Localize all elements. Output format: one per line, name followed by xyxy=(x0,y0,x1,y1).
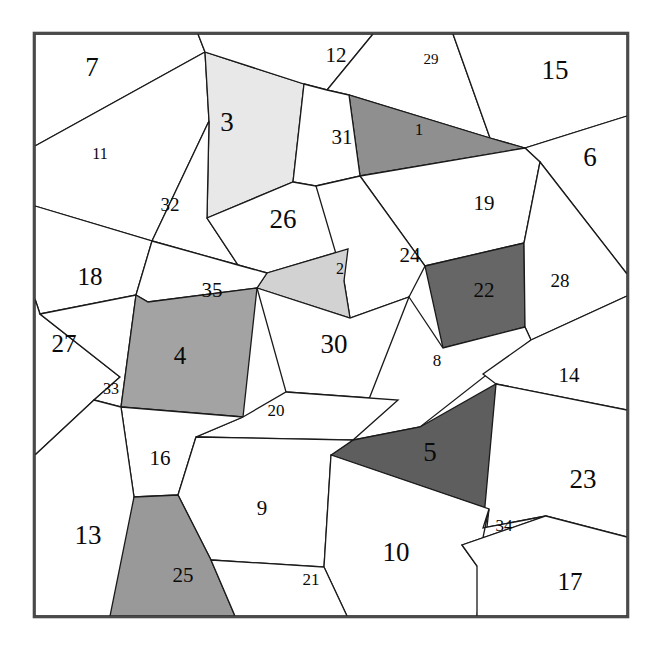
polygon-label-25: 25 xyxy=(173,563,194,587)
polygon-label-16: 16 xyxy=(150,446,171,470)
polygon-label-9: 9 xyxy=(257,496,268,520)
polygon-label-35: 35 xyxy=(202,278,223,302)
polygon-label-29: 29 xyxy=(424,51,439,67)
polygon-label-1: 1 xyxy=(415,120,424,139)
polygon-label-27: 27 xyxy=(52,330,77,357)
polygon-label-5: 5 xyxy=(423,437,437,467)
cells-layer xyxy=(35,34,627,616)
polygon-label-33: 33 xyxy=(103,380,119,397)
polygon-23 xyxy=(483,384,627,537)
polygon-label-22: 22 xyxy=(474,278,495,302)
polygon-label-28: 28 xyxy=(551,270,570,291)
polygon-label-20: 20 xyxy=(268,401,285,420)
polygon-label-34: 34 xyxy=(496,516,514,535)
polygon-label-3: 3 xyxy=(220,107,234,137)
polygon-label-8: 8 xyxy=(433,351,442,370)
polygon-label-21: 21 xyxy=(303,570,320,589)
polygon-label-23: 23 xyxy=(570,464,597,494)
polygon-label-13: 13 xyxy=(75,520,102,550)
polygon-label-32: 32 xyxy=(161,194,180,215)
polygon-label-26: 26 xyxy=(270,204,297,234)
figure-canvas: 7113321229151316192624222281835273343081… xyxy=(0,0,657,653)
polygon-label-15: 15 xyxy=(542,55,569,85)
polygon-label-24: 24 xyxy=(400,243,422,267)
polygon-label-11: 11 xyxy=(92,145,107,162)
polygon-label-10: 10 xyxy=(383,537,410,567)
polygon-label-7: 7 xyxy=(85,52,99,82)
polygon-tiling-svg: 7113321229151316192624222281835273343081… xyxy=(0,0,657,653)
polygon-label-30: 30 xyxy=(321,329,348,359)
polygon-label-17: 17 xyxy=(558,568,583,595)
polygon-label-6: 6 xyxy=(583,142,597,172)
polygon-4 xyxy=(121,288,257,417)
polygon-label-14: 14 xyxy=(559,363,581,387)
polygon-label-12: 12 xyxy=(326,43,347,67)
polygon-label-4: 4 xyxy=(174,342,187,369)
polygon-label-18: 18 xyxy=(78,263,103,290)
polygon-label-31: 31 xyxy=(332,125,353,149)
polygon-label-19: 19 xyxy=(474,191,495,215)
polygon-label-2: 2 xyxy=(336,260,344,277)
